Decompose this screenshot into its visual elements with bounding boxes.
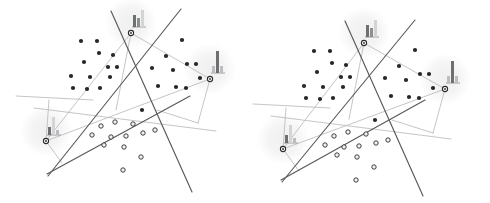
data-point-ring (131, 122, 135, 126)
data-point (418, 72, 422, 76)
left-panel-canvas (0, 0, 245, 203)
data-point-ring (364, 132, 368, 136)
icon-bar (133, 15, 136, 27)
icon-bar (220, 66, 223, 73)
icon-bar (455, 76, 458, 83)
figure-root (0, 0, 490, 203)
data-point (140, 108, 144, 112)
halo-hub-left (257, 113, 309, 165)
data-point-ring (124, 134, 128, 138)
data-point-ring (354, 178, 358, 182)
data-point (198, 76, 202, 80)
icon-bar (451, 61, 454, 83)
data-point-ring (355, 155, 359, 159)
data-point-ring (139, 155, 143, 159)
hub-node-center (282, 148, 284, 150)
panel-right (245, 0, 490, 203)
panel-left (0, 0, 245, 203)
data-point (171, 68, 175, 72)
data-point (331, 96, 335, 100)
left-panel-cluster-upper-left (69, 39, 119, 91)
data-point (373, 118, 377, 122)
data-point (106, 65, 110, 69)
data-point-ring (141, 131, 145, 135)
data-point-ring (374, 141, 378, 145)
icon-bar (216, 51, 219, 73)
data-point-ring (102, 143, 106, 147)
icon-bar (370, 28, 373, 37)
data-point (98, 86, 102, 90)
halo-hub-right (184, 43, 236, 95)
data-point (85, 87, 89, 91)
data-point-ring (335, 153, 339, 157)
data-point-ring (346, 130, 350, 134)
data-point (302, 84, 306, 88)
data-point (69, 74, 73, 78)
data-point (417, 96, 421, 100)
hub-node-center (45, 140, 47, 142)
data-point-ring (99, 124, 103, 128)
data-point (330, 61, 334, 65)
hub-node-center (130, 32, 132, 34)
data-point (95, 39, 99, 43)
data-point-ring (323, 143, 327, 147)
data-point (88, 75, 92, 79)
data-point (174, 85, 178, 89)
data-point (427, 72, 431, 76)
data-point (111, 53, 115, 57)
data-point (341, 85, 345, 89)
edge-hubright-bracket (392, 120, 433, 133)
data-point (71, 86, 75, 90)
halo-hub-top (338, 7, 390, 59)
data-point (383, 76, 387, 80)
right-panel-cluster-upper-left (302, 49, 352, 101)
edge-hubright-bracket (157, 110, 198, 123)
edge-hubtop-hubleft (283, 43, 364, 149)
data-point (321, 85, 325, 89)
data-point (115, 65, 119, 69)
halo-hub-left (20, 105, 72, 157)
data-point (164, 54, 168, 58)
data-point (82, 60, 86, 64)
icon-bar (137, 18, 140, 27)
right-panel-canvas (245, 0, 490, 203)
data-point (180, 38, 184, 42)
data-point (108, 75, 112, 79)
hub-node-center (444, 88, 446, 90)
data-point (184, 86, 188, 90)
data-point (348, 75, 352, 79)
icon-bar (212, 66, 215, 73)
icon-bar (293, 138, 296, 143)
data-point-ring (113, 120, 117, 124)
data-point (150, 66, 154, 70)
icon-bar (374, 20, 377, 37)
data-point (344, 63, 348, 67)
data-point (328, 49, 332, 53)
halo-hub-top (105, 0, 157, 49)
data-point (79, 39, 83, 43)
data-point-ring (121, 168, 125, 172)
data-point-ring (109, 135, 113, 139)
icon-bar (56, 130, 59, 135)
data-point (404, 78, 408, 82)
hub-node-center (209, 78, 211, 80)
data-point (97, 51, 101, 55)
data-point-ring (122, 145, 126, 149)
data-point (315, 70, 319, 74)
data-point (304, 96, 308, 100)
data-point (312, 49, 316, 53)
data-point (431, 86, 435, 90)
icon-bar (285, 135, 288, 143)
data-point-ring (90, 133, 94, 137)
data-point-ring (357, 144, 361, 148)
data-point (185, 62, 189, 66)
data-point-ring (342, 145, 346, 149)
data-point-ring (332, 134, 336, 138)
data-point-ring (386, 138, 390, 142)
icon-bar (141, 10, 144, 27)
icon-bar (289, 125, 292, 143)
edge-bracket-top (253, 104, 330, 108)
data-point-ring (153, 128, 157, 132)
left-panel-cluster-lower (90, 120, 157, 172)
data-point (413, 48, 417, 52)
